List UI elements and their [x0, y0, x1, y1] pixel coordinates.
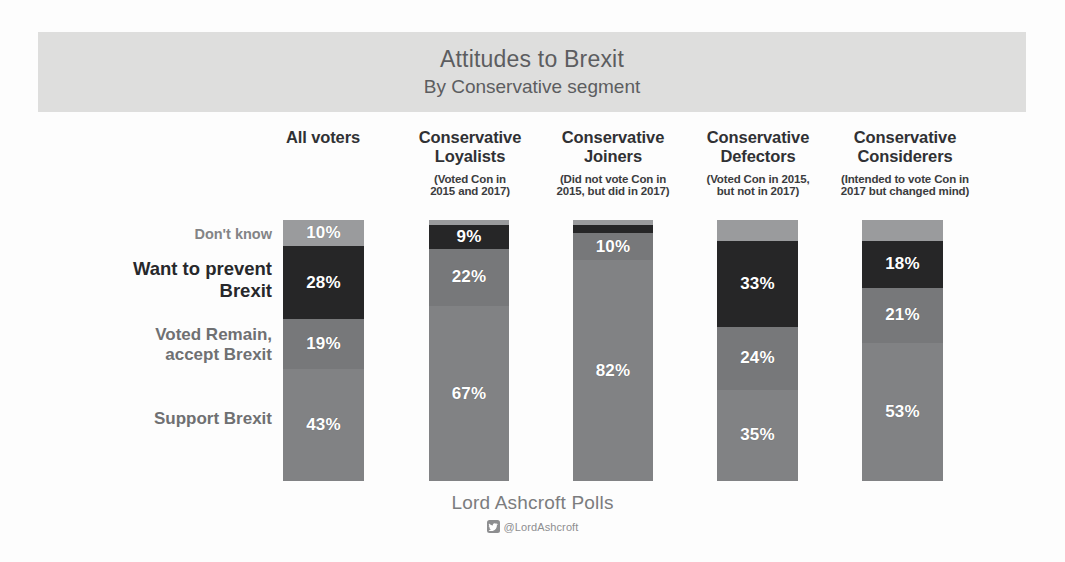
bar-segment-voted-remain-accept-brexit[interactable]: 22%	[429, 249, 509, 306]
bar-segment-value: 24%	[740, 348, 775, 368]
bar-segment-voted-remain-accept-brexit[interactable]: 19%	[283, 319, 364, 369]
bar-segment-value: 28%	[306, 273, 341, 293]
bar-segment-want-to-prevent-brexit[interactable]: 28%	[283, 246, 364, 319]
bar-segment-dont-know[interactable]: 10%	[283, 220, 364, 246]
bar-column-conservative-loyalists[interactable]: 9% 22% 67%	[429, 220, 509, 481]
bar-segment-support-brexit[interactable]: 82%	[573, 260, 653, 481]
bar-segment-voted-remain-accept-brexit[interactable]: 10%	[573, 233, 653, 260]
bar-segment-value: 43%	[306, 415, 341, 435]
twitter-handle-text: @LordAshcroft	[504, 521, 579, 533]
bar-segment-support-brexit[interactable]: 35%	[717, 390, 798, 481]
twitter-handle-row[interactable]: @LordAshcroft	[487, 520, 579, 533]
bar-column-all-voters[interactable]: 10% 28% 19% 43%	[283, 220, 364, 481]
bar-segment-value: 53%	[885, 402, 920, 422]
bar-segment-value: 10%	[596, 237, 631, 257]
bar-segment-dont-know[interactable]	[717, 220, 798, 241]
bar-segment-want-to-prevent-brexit[interactable]: 33%	[717, 241, 798, 327]
bar-segment-value: 33%	[740, 274, 775, 294]
stacked-bar-plot-area: 10% 28% 19% 43% 9% 22% 67%	[0, 0, 1065, 562]
chart-footer: Lord Ashcroft Polls @LordAshcroft	[0, 492, 1065, 536]
bar-column-conservative-defectors[interactable]: 33% 24% 35%	[717, 220, 798, 481]
bar-segment-support-brexit[interactable]: 67%	[429, 306, 509, 481]
bar-segment-value: 18%	[885, 254, 920, 274]
bar-column-conservative-joiners[interactable]: 10% 82%	[573, 220, 653, 481]
bar-column-conservative-considerers[interactable]: 18% 21% 53%	[862, 220, 943, 481]
chart-page: Attitudes to Brexit By Conservative segm…	[0, 0, 1065, 562]
bar-segment-value: 21%	[885, 305, 920, 325]
bar-segment-value: 35%	[740, 425, 775, 445]
bar-segment-value: 19%	[306, 334, 341, 354]
bar-segment-support-brexit[interactable]: 53%	[862, 343, 943, 481]
bar-segment-want-to-prevent-brexit[interactable]	[573, 225, 653, 233]
source-attribution: Lord Ashcroft Polls	[0, 492, 1065, 514]
bar-segment-value: 9%	[457, 227, 482, 247]
bar-segment-value: 82%	[596, 361, 631, 381]
bar-segment-voted-remain-accept-brexit[interactable]: 24%	[717, 327, 798, 390]
bar-segment-want-to-prevent-brexit[interactable]: 18%	[862, 241, 943, 288]
bar-segment-want-to-prevent-brexit[interactable]: 9%	[429, 225, 509, 248]
bar-segment-support-brexit[interactable]: 43%	[283, 369, 364, 481]
bar-segment-voted-remain-accept-brexit[interactable]: 21%	[862, 288, 943, 343]
twitter-bird-icon[interactable]	[487, 520, 500, 533]
bar-segment-value: 67%	[452, 384, 487, 404]
bar-segment-value: 22%	[452, 267, 487, 287]
bar-segment-value: 10%	[306, 223, 341, 243]
bar-segment-dont-know[interactable]	[862, 220, 943, 241]
